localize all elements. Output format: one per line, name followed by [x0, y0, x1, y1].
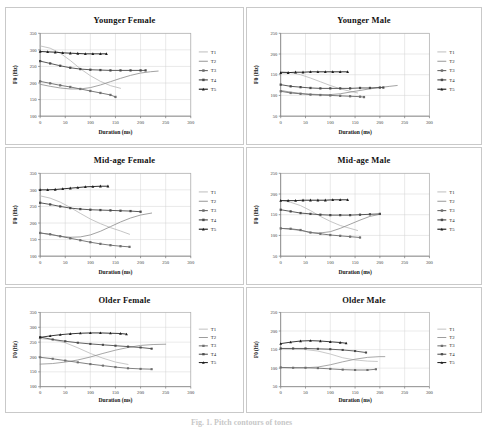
chart-panel: Older Male050100150200250300501001502002… — [246, 287, 482, 413]
svg-text:200: 200 — [137, 390, 145, 395]
svg-text:200: 200 — [270, 192, 277, 197]
svg-text:300: 300 — [426, 260, 433, 265]
svg-text:T4: T4 — [449, 218, 455, 223]
svg-text:200: 200 — [30, 221, 38, 226]
svg-text:150: 150 — [30, 97, 38, 102]
svg-text:T5: T5 — [449, 87, 455, 92]
svg-text:50: 50 — [273, 254, 278, 259]
svg-text:Duration (ms): Duration (ms) — [338, 129, 371, 136]
svg-text:T2: T2 — [211, 335, 217, 340]
svg-text:F0 (Hz): F0 (Hz) — [12, 65, 19, 84]
svg-text:300: 300 — [30, 48, 38, 53]
svg-text:200: 200 — [376, 260, 383, 265]
svg-text:T4: T4 — [211, 78, 217, 83]
svg-text:250: 250 — [30, 340, 38, 345]
svg-text:0: 0 — [39, 390, 42, 395]
svg-text:150: 150 — [352, 260, 359, 265]
svg-text:F0 (Hz): F0 (Hz) — [253, 205, 260, 224]
svg-text:200: 200 — [270, 329, 278, 334]
svg-text:250: 250 — [270, 31, 277, 36]
svg-text:150: 150 — [112, 390, 120, 395]
svg-text:0: 0 — [39, 260, 42, 265]
svg-text:250: 250 — [270, 171, 277, 176]
svg-text:200: 200 — [376, 390, 384, 395]
chart-title: Younger Male — [247, 15, 481, 25]
svg-text:T1: T1 — [449, 50, 455, 55]
svg-text:300: 300 — [187, 390, 195, 395]
svg-text:250: 250 — [401, 260, 408, 265]
chart-grid: Younger Female05010015020025030010015020… — [4, 6, 479, 414]
svg-text:Duration (ms): Duration (ms) — [338, 269, 371, 276]
svg-text:F0 (Hz): F0 (Hz) — [12, 205, 19, 224]
svg-text:T1: T1 — [211, 190, 217, 195]
chart-panel: Younger Male0501001502002503005010015020… — [246, 7, 482, 145]
svg-text:100: 100 — [270, 366, 278, 371]
svg-text:T1: T1 — [211, 327, 217, 332]
svg-text:150: 150 — [112, 120, 120, 125]
svg-text:200: 200 — [30, 81, 38, 86]
svg-text:300: 300 — [30, 188, 38, 193]
svg-text:200: 200 — [137, 120, 145, 125]
svg-text:50: 50 — [63, 120, 68, 125]
svg-text:100: 100 — [30, 114, 38, 119]
chart-panel: Mid-age Male0501001502002503005010015020… — [246, 147, 482, 285]
svg-text:350: 350 — [30, 31, 38, 36]
svg-text:250: 250 — [401, 390, 409, 395]
svg-text:350: 350 — [30, 171, 38, 176]
svg-text:0: 0 — [39, 120, 42, 125]
svg-text:F0 (Hz): F0 (Hz) — [12, 341, 19, 358]
svg-text:T4: T4 — [449, 352, 455, 357]
svg-text:100: 100 — [30, 254, 38, 259]
svg-text:T4: T4 — [449, 78, 455, 83]
svg-text:350: 350 — [30, 310, 38, 315]
chart-title: Younger Female — [6, 15, 243, 25]
svg-text:100: 100 — [327, 260, 334, 265]
svg-text:50: 50 — [63, 260, 68, 265]
svg-text:50: 50 — [273, 114, 278, 119]
svg-text:300: 300 — [426, 120, 433, 125]
svg-text:T2: T2 — [211, 59, 217, 64]
svg-text:200: 200 — [137, 260, 145, 265]
svg-text:250: 250 — [162, 390, 170, 395]
svg-text:50: 50 — [303, 390, 308, 395]
chart-panel: Younger Female05010015020025030010015020… — [5, 7, 244, 145]
svg-text:300: 300 — [187, 260, 195, 265]
svg-text:200: 200 — [376, 120, 383, 125]
svg-text:Duration (ms): Duration (ms) — [99, 129, 133, 136]
chart-title: Older Male — [247, 295, 481, 305]
svg-text:T5: T5 — [449, 227, 455, 232]
svg-text:Duration (ms): Duration (ms) — [99, 269, 133, 276]
svg-text:100: 100 — [87, 120, 95, 125]
svg-text:T2: T2 — [449, 335, 455, 340]
figure-caption: Fig. 1. Pitch contours of tones — [0, 418, 483, 427]
svg-text:T1: T1 — [211, 50, 217, 55]
svg-text:T2: T2 — [211, 199, 217, 204]
svg-text:0: 0 — [280, 390, 283, 395]
chart-title: Older Female — [6, 295, 243, 305]
svg-text:200: 200 — [270, 52, 277, 57]
svg-text:Duration (ms): Duration (ms) — [99, 398, 133, 405]
svg-text:50: 50 — [303, 120, 308, 125]
svg-text:T5: T5 — [449, 360, 455, 365]
svg-text:250: 250 — [401, 120, 408, 125]
svg-text:0: 0 — [280, 260, 283, 265]
svg-text:300: 300 — [30, 325, 38, 330]
svg-text:50: 50 — [63, 390, 68, 395]
svg-text:T3: T3 — [211, 344, 217, 349]
svg-text:T3: T3 — [211, 68, 217, 73]
svg-text:150: 150 — [30, 237, 38, 242]
svg-text:F0 (Hz): F0 (Hz) — [253, 341, 260, 358]
svg-text:150: 150 — [352, 120, 359, 125]
svg-text:150: 150 — [270, 347, 278, 352]
svg-text:T5: T5 — [211, 87, 217, 92]
svg-text:250: 250 — [30, 204, 38, 209]
chart-panel: Older Female0501001502002503001001502002… — [5, 287, 244, 413]
svg-text:50: 50 — [273, 384, 278, 389]
svg-text:100: 100 — [270, 233, 277, 238]
svg-text:100: 100 — [87, 260, 95, 265]
chart-panel: Mid-age Female05010015020025030010015020… — [5, 147, 244, 285]
svg-text:300: 300 — [426, 390, 434, 395]
svg-text:250: 250 — [162, 260, 170, 265]
svg-text:250: 250 — [270, 310, 278, 315]
